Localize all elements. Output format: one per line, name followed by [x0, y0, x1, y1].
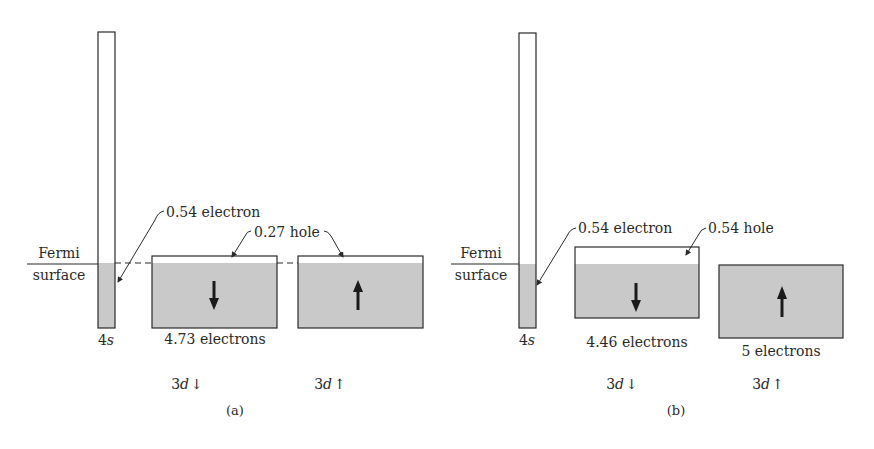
annotation-text: 0.54 electron: [578, 220, 672, 236]
leader-line: [232, 231, 251, 257]
fermi-surface-label-b: Fermi surface: [451, 245, 519, 283]
leader-line: [686, 228, 706, 255]
band-3d-up-a: 3d↑: [298, 256, 423, 392]
annotation-text: 0.27 hole: [254, 224, 320, 240]
panel-a: Fermi surface 4s 0.54 electron 4.73 el: [27, 32, 423, 418]
annotation-hole-a: 0.27 hole: [232, 224, 343, 257]
band-4s-b: 4s: [519, 33, 536, 348]
band-fill: [298, 263, 423, 328]
band-3d-up-label: 3d↑: [752, 376, 784, 392]
electron-count: 5 electrons: [741, 343, 820, 359]
band-4s-label: 4s: [98, 332, 114, 348]
band-3d-down-label: 3d↓: [171, 376, 203, 392]
surface-text: surface: [33, 267, 86, 283]
band-3d-up-b: 5 electrons 3d↑: [719, 265, 843, 392]
annotation-text: 0.54 hole: [708, 220, 774, 236]
panel-caption: (a): [226, 403, 244, 418]
leader-line: [324, 231, 343, 257]
band-3d-down-a: 4.73 electrons 3d↓: [152, 256, 277, 392]
annotation-text: 0.54 electron: [166, 204, 260, 220]
band-diagram: Fermi surface 4s 0.54 electron 4.73 el: [0, 0, 874, 449]
fermi-text: Fermi: [38, 245, 80, 261]
band-4s-label: 4s: [519, 332, 535, 348]
electron-count: 4.73 electrons: [164, 331, 265, 347]
band-3d-down-b: 4.46 electrons 3d↓: [575, 247, 699, 392]
band-4s-a: 4s: [98, 32, 115, 348]
panel-b: Fermi surface 4s 0.54 electron 4.46 elec…: [451, 33, 843, 418]
band-4s-fill: [519, 264, 536, 328]
band-3d-up-label: 3d↑: [314, 376, 346, 392]
fermi-surface-label-a: Fermi surface: [27, 245, 98, 283]
electron-count: 4.46 electrons: [586, 334, 687, 350]
surface-text: surface: [455, 267, 508, 283]
band-4s-fill: [98, 263, 115, 328]
band-3d-down-label: 3d↓: [606, 376, 638, 392]
panel-caption: (b): [667, 403, 685, 418]
fermi-text: Fermi: [460, 245, 502, 261]
leader-line: [537, 228, 576, 285]
